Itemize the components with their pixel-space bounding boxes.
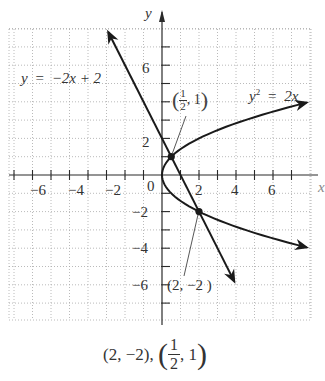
point1-leader-line [172, 116, 186, 154]
parabola-eq-equals: = [268, 88, 276, 104]
point1-y: , 1 [187, 92, 201, 107]
x-tick-label: 6 [268, 183, 276, 198]
point1-label: (12, 1) [172, 88, 208, 112]
x-tick-label: 4 [231, 183, 239, 198]
y-axis-label: y [145, 6, 152, 21]
parabola-eq-lhs: y [249, 88, 256, 104]
left-paren: ( [172, 87, 179, 112]
x-tick-label: −4 [68, 183, 84, 198]
point1-fraction: 12 [179, 88, 187, 112]
answer-text: (2, −2), (12, 1) [103, 336, 207, 372]
parabola-equation-label: y2 = 2x [249, 88, 298, 104]
intersection-point-1 [168, 153, 175, 160]
y-axis-arrow-icon [159, 10, 165, 22]
parabola-eq-exponent: 2 [256, 87, 261, 97]
answer-point-2: (2, −2), [103, 345, 154, 364]
answer-fraction-denominator: 2 [168, 355, 180, 373]
answer-right-paren: ) [197, 337, 207, 370]
origin-label: 0 [147, 179, 155, 194]
y-tick-label: 2 [142, 135, 150, 150]
line-equation-label: y = −2x + 2 [21, 71, 101, 86]
line-eq-equals: = [35, 70, 43, 86]
line-eq-lhs: y [21, 70, 28, 86]
answer-fraction-numerator: 1 [168, 336, 180, 355]
y-tick-label: −6 [132, 278, 148, 293]
answer-point-1-y: , 1 [180, 345, 197, 364]
fraction-denominator: 2 [179, 101, 187, 113]
right-paren: ) [201, 87, 208, 112]
fraction-numerator: 1 [179, 88, 187, 101]
line-eq-rhs: −2x + 2 [52, 70, 101, 86]
intersection-point-2 [195, 208, 202, 215]
y-tick-label: −4 [132, 241, 148, 256]
x-tick-label: −2 [105, 183, 121, 198]
point2-label: (2, −2 ) [167, 278, 212, 293]
parabola-eq-rhs: 2x [284, 88, 298, 104]
y-tick-label: 6 [142, 61, 150, 76]
answer-fraction: 12 [168, 336, 180, 372]
x-tick-label: 2 [195, 183, 203, 198]
x-tick-label: −6 [30, 183, 46, 198]
y-tick-label: −2 [132, 205, 148, 220]
x-axis-label: x [318, 180, 325, 195]
answer-left-paren: ( [158, 337, 168, 370]
